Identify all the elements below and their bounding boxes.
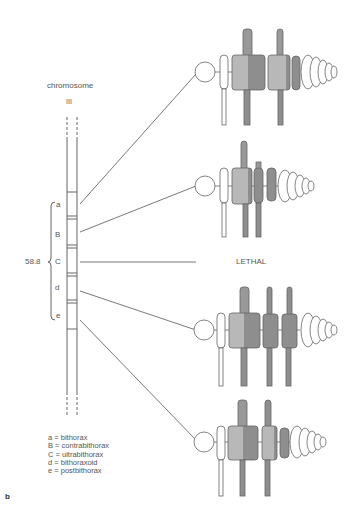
locus-a: a bbox=[56, 200, 60, 209]
fly-bithoraxoid bbox=[194, 287, 337, 386]
lethal-label: LETHAL bbox=[236, 257, 266, 266]
legend-item-e: e = postbithorax bbox=[48, 467, 109, 475]
locus-c: C bbox=[55, 257, 61, 266]
fly-contrabithorax bbox=[195, 141, 314, 237]
legend: a = bithorax B = contrabithorax C = ultr… bbox=[48, 434, 109, 475]
locus-b: B bbox=[55, 230, 60, 239]
fly-postbithorax bbox=[194, 400, 326, 496]
chromosome-number: III bbox=[66, 98, 72, 105]
panel-label: b bbox=[5, 492, 10, 501]
locus-d: d bbox=[55, 283, 59, 292]
locus-e: e bbox=[56, 311, 60, 320]
connector-lines bbox=[80, 74, 196, 440]
chromosome-iii bbox=[67, 117, 77, 415]
fly-bithorax bbox=[195, 29, 337, 125]
brace bbox=[48, 202, 55, 320]
map-position: 58.8 bbox=[25, 257, 41, 266]
chromosome-title: chromosome bbox=[47, 81, 93, 90]
